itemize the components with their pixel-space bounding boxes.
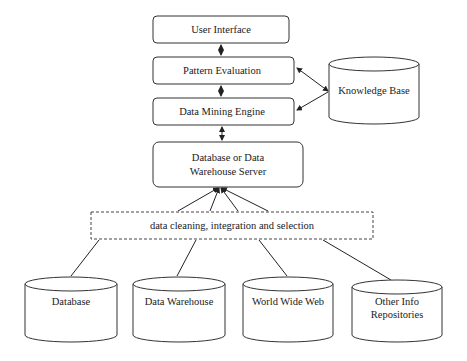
arrow-kb-pattern xyxy=(297,68,328,91)
cleaning-label: data cleaning, integration and selection xyxy=(150,220,315,231)
source-label-line1: Other Info xyxy=(375,296,419,307)
arrow-kb-engine xyxy=(297,92,328,110)
pattern-evaluation-box: Pattern Evaluation xyxy=(153,57,294,84)
source-database-cylinder: Database xyxy=(25,277,117,342)
source-other-info-cylinder: Other Info Repositories xyxy=(352,280,442,342)
cleaning-to-server-arrows xyxy=(178,188,268,211)
pattern-evaluation-label: Pattern Evaluation xyxy=(183,65,262,76)
server-label-line1: Database or Data xyxy=(192,152,265,163)
source-label: Data Warehouse xyxy=(145,296,214,307)
database-server-box: Database or Data Warehouse Server xyxy=(153,142,303,187)
source-world-wide-web-cylinder: World Wide Web xyxy=(243,277,333,342)
source-data-warehouse-cylinder: Data Warehouse xyxy=(133,277,225,342)
data-mining-engine-label: Data Mining Engine xyxy=(179,106,265,117)
data-mining-engine-box: Data Mining Engine xyxy=(153,98,294,125)
source-label: Database xyxy=(52,296,91,307)
source-label-line2: Repositories xyxy=(371,309,424,320)
architecture-diagram: User Interface Pattern Evaluation Data M… xyxy=(0,0,467,361)
source-label: World Wide Web xyxy=(252,296,324,307)
server-label-line2: Warehouse Server xyxy=(190,166,267,177)
knowledge-base-cylinder: Knowledge Base xyxy=(329,57,419,124)
knowledge-base-label: Knowledge Base xyxy=(338,85,410,96)
source-connectors xyxy=(71,240,391,280)
user-interface-label: User Interface xyxy=(191,24,251,35)
user-interface-box: User Interface xyxy=(153,16,289,43)
cleaning-integration-box: data cleaning, integration and selection xyxy=(91,212,373,239)
